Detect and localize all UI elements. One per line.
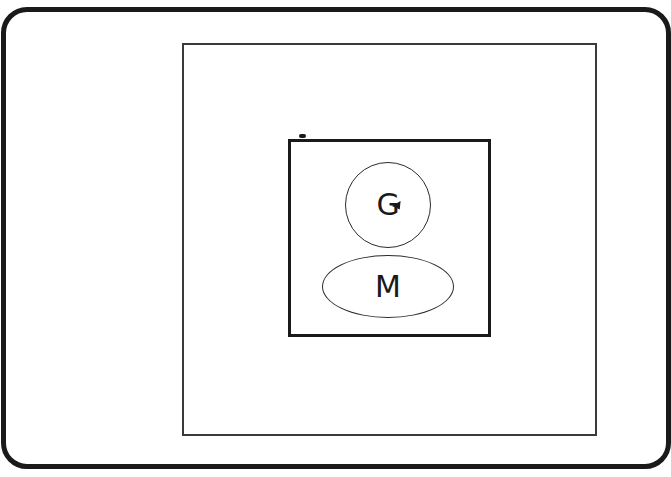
generator-circle: G [345,162,431,248]
corner-mark [299,134,306,138]
motor-ellipse: M [322,255,454,318]
motor-label: M [375,272,401,302]
